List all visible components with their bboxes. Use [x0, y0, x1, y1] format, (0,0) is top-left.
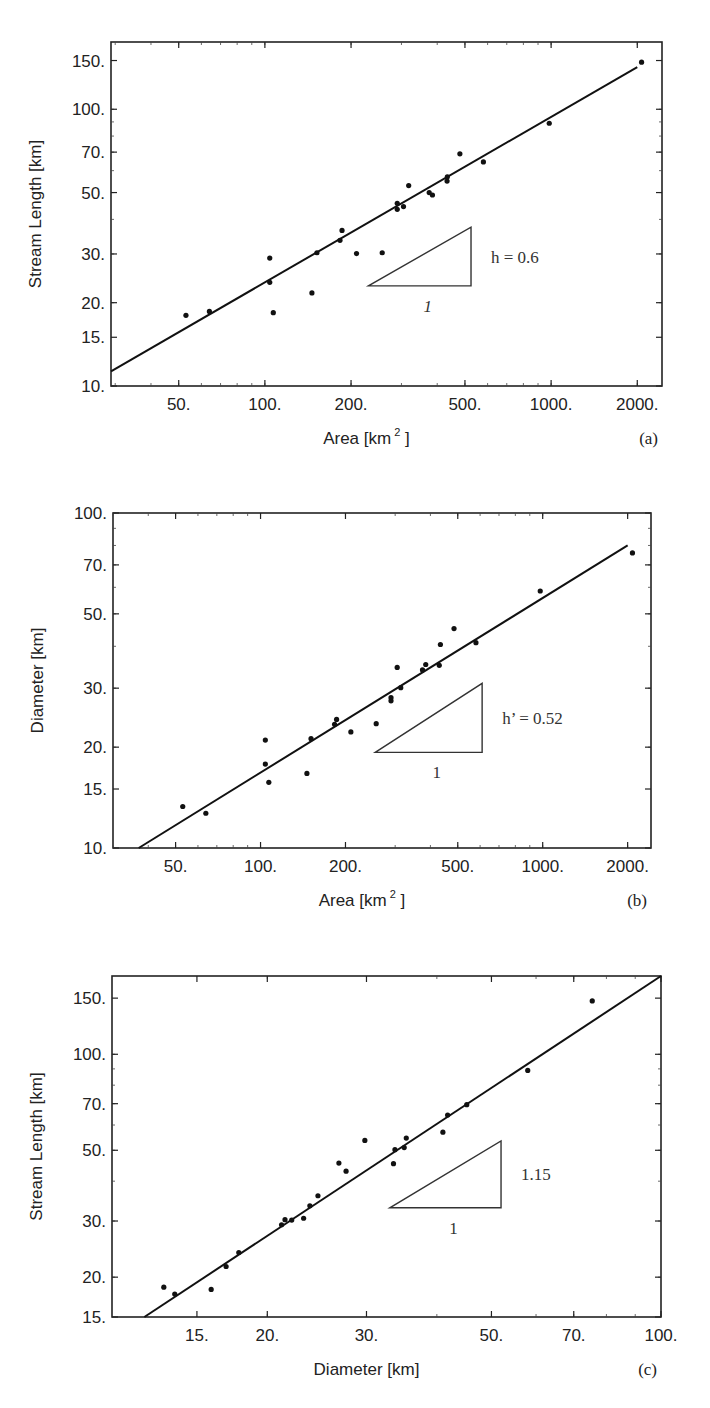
data-point: [437, 663, 442, 668]
data-point: [392, 1147, 397, 1152]
x-tick-label: 200.: [329, 857, 362, 876]
data-point: [404, 1135, 409, 1140]
x-tick-label: 100.: [644, 1326, 677, 1345]
x-tick-label: 15.: [185, 1326, 209, 1345]
data-point: [271, 310, 276, 315]
y-tick-label: 70.: [82, 1095, 106, 1114]
y-tick-label: 20.: [83, 738, 107, 757]
plot-frame: [111, 42, 662, 386]
data-point: [406, 183, 411, 188]
data-point: [161, 1285, 166, 1290]
data-point: [334, 717, 339, 722]
slope-triangle: [375, 683, 482, 752]
data-point: [423, 662, 428, 667]
data-point: [263, 762, 268, 767]
data-point: [301, 1216, 306, 1221]
data-point: [451, 626, 456, 631]
data-point: [362, 1138, 367, 1143]
data-point: [438, 642, 443, 647]
data-point: [266, 780, 271, 785]
slope-label: h’ = 0.52: [502, 709, 563, 728]
y-tick-label: 100.: [74, 504, 107, 523]
y-tick-label: 70.: [81, 143, 105, 162]
data-point: [401, 204, 406, 209]
y-tick-label: 15.: [83, 780, 107, 799]
data-point: [336, 1160, 341, 1165]
run-label: 1: [449, 1219, 458, 1238]
x-tick-label: 500.: [448, 395, 481, 414]
y-tick-label: 20.: [81, 294, 105, 313]
data-point: [172, 1291, 177, 1296]
data-point: [180, 804, 185, 809]
y-axis-title: Stream Length [km]: [26, 140, 45, 288]
data-point: [339, 228, 344, 233]
y-tick-label: 20.: [82, 1268, 106, 1287]
data-point: [630, 550, 635, 555]
data-point: [289, 1217, 294, 1222]
data-point: [547, 121, 552, 126]
x-tick-label: 500.: [441, 857, 474, 876]
data-point: [395, 201, 400, 206]
x-tick-label: 2000.: [616, 395, 659, 414]
x-tick-label: 70.: [562, 1326, 586, 1345]
x-tick-label: 1000.: [530, 395, 573, 414]
data-point: [308, 736, 313, 741]
data-point: [380, 250, 385, 255]
data-point: [304, 771, 309, 776]
data-point: [203, 811, 208, 816]
data-point: [464, 1102, 469, 1107]
data-point: [420, 667, 425, 672]
x-axis-title: Area [km 2 ]: [319, 888, 406, 910]
chart-b: 50.100.200.500.1000.2000.10.15.20.30.50.…: [28, 504, 651, 910]
data-point: [267, 280, 272, 285]
x-axis-title: Diameter [km]: [314, 1360, 420, 1379]
y-tick-label: 50.: [81, 184, 105, 203]
x-tick-label: 100.: [244, 857, 277, 876]
data-point: [314, 250, 319, 255]
data-point: [343, 1169, 348, 1174]
chart-c: 15.20.30.50.70.100.15.20.30.50.70.100.15…: [27, 976, 678, 1379]
panel-label: (a): [639, 429, 658, 448]
data-point: [538, 588, 543, 593]
slope-triangle: [390, 1141, 501, 1208]
plot-frame: [113, 513, 651, 848]
y-tick-label: 50.: [82, 1141, 106, 1160]
y-tick-label: 15.: [81, 328, 105, 347]
data-point: [457, 151, 462, 156]
y-tick-label: 30.: [83, 679, 107, 698]
y-tick-label: 15.: [82, 1308, 106, 1327]
data-point: [391, 1161, 396, 1166]
data-point: [279, 1222, 284, 1227]
y-tick-label: 30.: [81, 245, 105, 264]
data-point: [224, 1264, 229, 1269]
data-point: [307, 1203, 312, 1208]
data-point: [348, 729, 353, 734]
y-tick-label: 100.: [72, 100, 105, 119]
y-tick-label: 150.: [73, 989, 106, 1008]
data-point: [282, 1217, 287, 1222]
y-axis-title: Stream Length [km]: [27, 1072, 46, 1220]
data-point: [525, 1068, 530, 1073]
panel-label: (b): [627, 891, 647, 910]
data-point: [445, 1112, 450, 1117]
data-point: [590, 998, 595, 1003]
data-point: [639, 60, 644, 65]
y-axis-title: Diameter [km]: [28, 628, 47, 734]
data-point: [337, 238, 342, 243]
data-point: [395, 207, 400, 212]
data-point: [236, 1250, 241, 1255]
run-label: 1: [423, 297, 432, 316]
data-point: [309, 290, 314, 295]
slope-triangle: [368, 227, 471, 286]
data-point: [388, 695, 393, 700]
slope-label: h = 0.6: [491, 248, 539, 267]
x-tick-label: 200.: [334, 395, 367, 414]
x-tick-label: 50.: [167, 395, 191, 414]
data-point: [354, 251, 359, 256]
data-point: [263, 737, 268, 742]
y-tick-label: 50.: [83, 605, 107, 624]
data-point: [395, 665, 400, 670]
run-label: 1: [432, 763, 441, 782]
data-point: [209, 1287, 214, 1292]
y-tick-label: 70.: [83, 556, 107, 575]
